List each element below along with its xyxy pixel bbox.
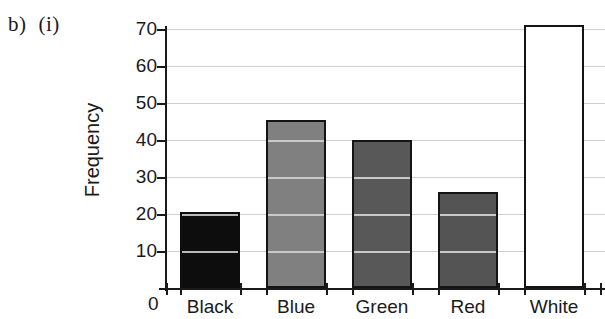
- x-axis-label-green: Green: [339, 296, 425, 318]
- x-axis-label-black: Black: [167, 296, 253, 318]
- y-axis-tick: [157, 177, 167, 179]
- x-axis-line: [159, 288, 605, 290]
- y-axis-tick: [157, 103, 167, 105]
- bar-red: [438, 192, 498, 288]
- gridline-over-bar: [440, 214, 496, 216]
- x-axis-tick: [326, 283, 328, 295]
- bar-blue: [266, 120, 326, 288]
- y-axis-tick-label: 70: [117, 19, 157, 38]
- y-axis-tick-label: 30: [117, 167, 157, 186]
- gridline-over-bar: [268, 251, 324, 253]
- x-axis-tick: [584, 283, 586, 295]
- x-axis-tick: [240, 283, 242, 295]
- bar-white: [524, 25, 584, 288]
- y-axis-tick-label: 60: [117, 56, 157, 75]
- y-axis-tick-label: 20: [117, 204, 157, 223]
- figure-part-label: b)(i): [8, 12, 60, 37]
- figure-part-letter: b): [8, 12, 27, 36]
- y-axis-tick-label: 50: [117, 93, 157, 112]
- x-axis-label-blue: Blue: [253, 296, 339, 318]
- gridline-over-bar: [354, 251, 410, 253]
- x-axis-label-white: White: [511, 296, 597, 318]
- x-axis-tick: [498, 283, 500, 295]
- figure-panel: b)(i) Frequency 70605040302010 0 BlackBl…: [0, 0, 605, 319]
- x-axis-tick: [412, 283, 414, 295]
- gridline-over-bar: [182, 251, 238, 253]
- y-axis-zero-label: 0: [148, 293, 159, 315]
- figure-part-roman: (i): [39, 12, 60, 36]
- y-axis-tick: [157, 66, 167, 68]
- y-axis-tick: [157, 214, 167, 216]
- y-axis-tick: [157, 251, 167, 253]
- y-axis-tick-label: 40: [117, 130, 157, 149]
- x-axis-end-tick: [600, 283, 602, 295]
- gridline-over-bar: [268, 214, 324, 216]
- gridline-over-bar: [440, 251, 496, 253]
- x-axis-origin-tick: [166, 283, 168, 295]
- y-axis-tick-label: 10: [117, 241, 157, 260]
- y-axis-tick: [157, 140, 167, 142]
- gridline-over-bar: [268, 140, 324, 142]
- gridline-over-bar: [182, 214, 238, 216]
- y-axis-tick: [157, 29, 167, 31]
- gridline-over-bar: [354, 214, 410, 216]
- x-axis-label-red: Red: [425, 296, 511, 318]
- gridline-over-bar: [268, 177, 324, 179]
- gridline-over-bar: [354, 177, 410, 179]
- y-axis-title: Frequency: [81, 70, 104, 230]
